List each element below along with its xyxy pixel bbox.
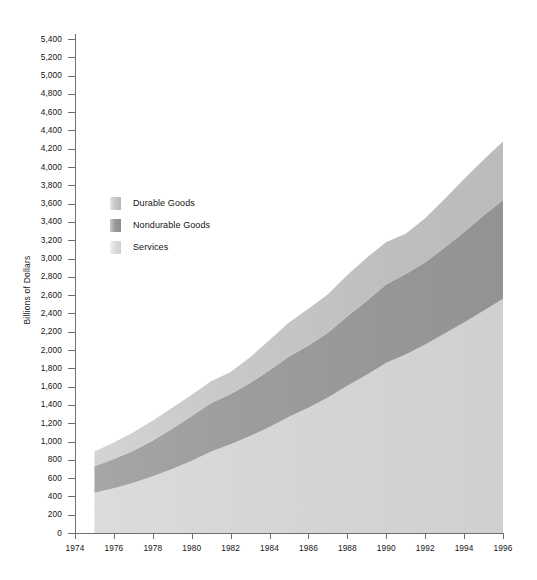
y-tick-label: 600: [0, 473, 62, 483]
y-tick: [68, 149, 75, 150]
x-tick: [114, 533, 115, 539]
x-tick: [425, 533, 426, 539]
y-tick: [68, 368, 75, 369]
y-tick-label: 1,400: [0, 399, 62, 409]
x-tick-label: 1992: [405, 543, 445, 553]
y-axis-title: Billions of Dollars: [22, 110, 32, 230]
y-tick-label: 1,000: [0, 436, 62, 446]
y-tick: [68, 442, 75, 443]
y-tick: [68, 460, 75, 461]
chart-legend: Durable Goods Nondurable Goods Services: [110, 192, 260, 258]
y-tick-label: 5,400: [0, 34, 62, 44]
y-axis-line: [75, 34, 76, 534]
x-tick: [308, 533, 309, 539]
y-tick: [68, 76, 75, 77]
stacked-area-plot: [0, 0, 537, 580]
x-tick-label: 1982: [211, 543, 251, 553]
x-tick: [347, 533, 348, 539]
y-tick: [68, 332, 75, 333]
y-tick: [68, 204, 75, 205]
legend-label-nondurable: Nondurable Goods: [133, 220, 210, 230]
x-tick-label: 1988: [327, 543, 367, 553]
y-tick-label: 0: [0, 528, 62, 538]
services-swatch-icon: [110, 241, 121, 254]
y-tick: [68, 112, 75, 113]
y-tick: [68, 259, 75, 260]
x-tick-label: 1994: [444, 543, 484, 553]
y-tick: [68, 478, 75, 479]
y-tick-label: 5,200: [0, 52, 62, 62]
y-tick-label: 800: [0, 454, 62, 464]
y-tick: [68, 496, 75, 497]
y-tick: [68, 423, 75, 424]
y-tick: [68, 39, 75, 40]
y-tick: [68, 240, 75, 241]
y-tick: [68, 222, 75, 223]
y-tick: [68, 277, 75, 278]
x-tick-label: 1990: [366, 543, 406, 553]
x-tick: [153, 533, 154, 539]
x-tick-label: 1986: [288, 543, 328, 553]
x-tick-label: 1984: [250, 543, 290, 553]
x-axis-line: [75, 533, 503, 534]
y-tick-label: 5,000: [0, 70, 62, 80]
y-tick: [68, 313, 75, 314]
x-tick-label: 1980: [172, 543, 212, 553]
legend-label-durable: Durable Goods: [133, 198, 195, 208]
x-tick-label: 1978: [133, 543, 173, 553]
y-tick: [68, 387, 75, 388]
legend-item-durable: Durable Goods: [110, 192, 260, 214]
y-tick: [68, 185, 75, 186]
chart-root: 02004006008001,0001,2001,4001,6001,8002,…: [0, 0, 537, 580]
x-tick-label: 1974: [55, 543, 95, 553]
y-tick-label: 1,600: [0, 381, 62, 391]
x-tick: [75, 533, 76, 539]
x-tick-label: 1976: [94, 543, 134, 553]
y-tick-label: 200: [0, 509, 62, 519]
y-tick: [68, 295, 75, 296]
x-tick: [192, 533, 193, 539]
x-tick: [270, 533, 271, 539]
nondurable-swatch-icon: [110, 219, 121, 232]
y-tick: [68, 350, 75, 351]
legend-item-nondurable: Nondurable Goods: [110, 214, 260, 236]
y-tick: [68, 515, 75, 516]
y-tick-label: 1,800: [0, 363, 62, 373]
y-tick: [68, 94, 75, 95]
x-tick: [386, 533, 387, 539]
x-tick: [503, 533, 504, 539]
y-tick: [68, 533, 75, 534]
y-axis-title-label: Billions of Dollars: [22, 230, 32, 350]
y-tick: [68, 130, 75, 131]
y-tick-label: 4,800: [0, 88, 62, 98]
y-tick: [68, 167, 75, 168]
legend-label-services: Services: [133, 242, 168, 252]
durable-swatch-icon: [110, 197, 121, 210]
y-tick: [68, 57, 75, 58]
x-tick: [464, 533, 465, 539]
y-tick-label: 400: [0, 491, 62, 501]
x-tick-label: 1996: [483, 543, 523, 553]
y-tick-label: 1,200: [0, 418, 62, 428]
y-tick: [68, 405, 75, 406]
legend-item-services: Services: [110, 236, 260, 258]
x-tick: [231, 533, 232, 539]
